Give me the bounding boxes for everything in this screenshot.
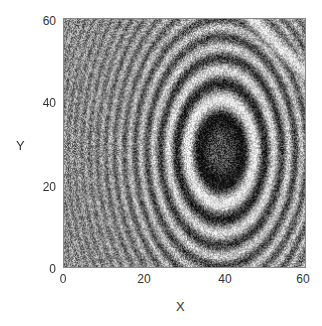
x-tick-0: 0 [48,272,78,286]
x-tick-40: 40 [210,272,240,286]
y-tick-60: 60 [0,14,56,28]
x-tick-60: 60 [288,272,318,286]
heatmap-plot-area [63,18,306,268]
y-tick-20: 20 [0,180,56,194]
fringe-heatmap [64,19,305,267]
y-tick-40: 40 [0,96,56,110]
x-tick-20: 20 [129,272,159,286]
x-axis-label: X [176,299,185,314]
y-axis-label: Y [16,138,25,153]
